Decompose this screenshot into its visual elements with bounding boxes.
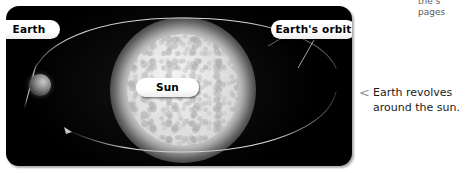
caption-line-2: around the sun. [373, 101, 470, 116]
clipped-sidebar-text-line-1: the s [418, 0, 470, 7]
caption-pointer-icon: < [359, 86, 370, 100]
clipped-sidebar-text-line-2: pages [418, 7, 470, 18]
clipped-sidebar-text: the s pages [418, 0, 470, 18]
illustration-panel: Earth Earth's orbit Sun [6, 6, 352, 166]
caption-line-1: Earth revolves [373, 86, 470, 101]
earth-sphere [29, 74, 51, 96]
callout-sun: Sun [136, 78, 199, 97]
caption-text: Earth revolves around the sun. [373, 86, 470, 115]
callout-earth: Earth [6, 20, 60, 39]
callout-earths-orbit: Earth's orbit [271, 20, 352, 39]
